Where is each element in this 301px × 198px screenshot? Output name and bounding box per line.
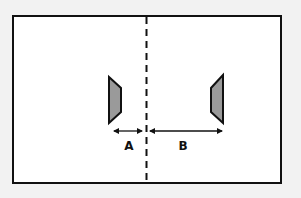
diagram-canvas: A B bbox=[0, 0, 301, 198]
label-b: B bbox=[178, 139, 187, 153]
label-a: A bbox=[124, 139, 134, 153]
